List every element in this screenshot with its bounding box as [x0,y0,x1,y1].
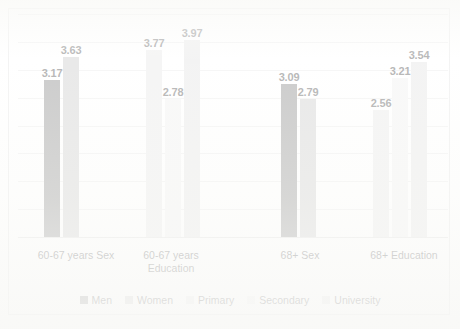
bars-layer: 3.173.633.772.783.973.092.792.563.213.54 [18,14,448,238]
bar-value-label: 2.79 [298,86,319,98]
bar [184,40,200,237]
legend-swatch-icon [125,296,133,304]
category-axis-label: 68+ Sex [263,249,337,262]
bar [411,62,427,237]
bar-value-label: 3.77 [144,37,165,49]
chart-frame: 3.173.633.772.783.973.092.792.563.213.54… [8,8,450,315]
legend-label: Men [92,294,112,306]
legend-label: University [334,294,380,306]
legend-swatch-icon [80,296,88,304]
bar-value-label: 3.63 [61,44,82,56]
legend-item[interactable]: Secondary [247,294,309,306]
chart-legend: MenWomenPrimarySecondaryUniversity [9,290,451,310]
legend-item[interactable]: Men [80,294,112,306]
bar-value-label: 3.09 [279,71,300,83]
bar-value-label: 2.56 [371,97,392,109]
legend-swatch-icon [247,296,255,304]
category-axis-label: 60-67 years Sex [21,249,131,262]
bar-value-label: 3.97 [182,27,203,39]
bar [300,99,316,237]
axis-baseline [18,237,448,238]
bar-value-label: 3.21 [390,65,411,77]
bar [63,57,79,237]
legend-swatch-icon [322,296,330,304]
legend-label: Women [137,294,173,306]
legend-item[interactable]: University [322,294,380,306]
bar-value-label: 3.17 [42,67,63,79]
category-axis: 60-67 years Sex60-67 years Education68+ … [18,245,448,289]
bar-value-label: 2.78 [163,86,184,98]
bar [165,99,181,237]
category-axis-label: 60-67 years Education [126,249,216,275]
plot-area: 3.173.633.772.783.973.092.792.563.213.54 [18,14,448,238]
legend-label: Primary [198,294,234,306]
legend-item[interactable]: Women [125,294,173,306]
bar [392,78,408,237]
legend-label: Secondary [259,294,309,306]
legend-item[interactable]: Primary [186,294,234,306]
bar [44,80,60,237]
bar-value-label: 3.54 [409,49,430,61]
legend-swatch-icon [186,296,194,304]
bar [146,50,162,237]
bar [373,110,389,237]
bar [281,84,297,237]
category-axis-label: 68+ Education [356,249,452,262]
